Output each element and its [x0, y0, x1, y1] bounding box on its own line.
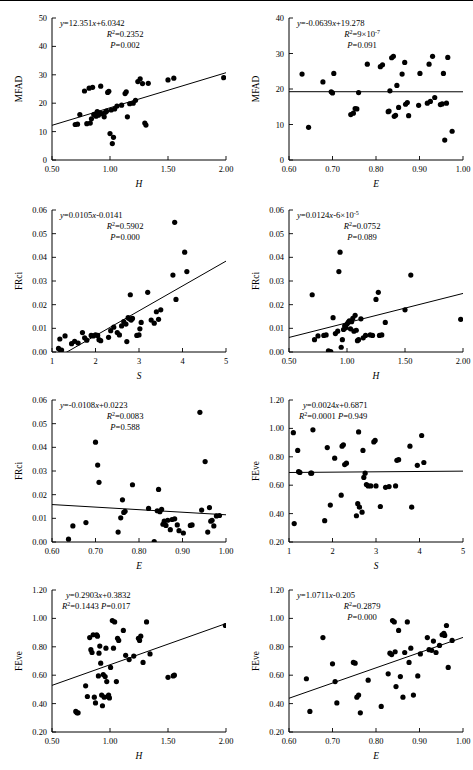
svg-text:y=1.0711x-0.205: y=1.0711x-0.205 [296, 590, 355, 600]
figure-top-rule [0, 0, 473, 1]
svg-text:y=0.0124x-6×10-5: y=0.0124x-6×10-5 [296, 210, 359, 220]
scatter-svg: 0.000.010.020.030.040.050.060.600.700.80… [0, 386, 236, 578]
x-axis-ticks: 0.501.001.502.00 [282, 348, 471, 366]
svg-text:20: 20 [276, 85, 284, 94]
svg-text:FRci: FRci [251, 271, 261, 290]
svg-text:0.05: 0.05 [32, 230, 47, 239]
svg-text:P=0.089: P=0.089 [346, 232, 376, 242]
svg-text:1.00: 1.00 [32, 614, 47, 623]
x-axis-ticks: 0.501.001.502.00 [45, 728, 234, 746]
svg-text:FEve: FEve [14, 651, 24, 671]
svg-text:5: 5 [461, 547, 465, 556]
stats-annotation: y=0.2903x+0.3832R2=0.1443 P=0.017 [61, 590, 131, 611]
svg-text:0.05: 0.05 [269, 230, 284, 239]
svg-text:0.60: 0.60 [32, 671, 47, 680]
x-axis-title: E [135, 561, 142, 571]
y-axis-title: MFAD [251, 76, 261, 103]
stats-annotation: y=-0.0108x+0.0223R2=0.0083P=0.588 [59, 400, 143, 432]
svg-text:y=0.2903x+0.3832: y=0.2903x+0.3832 [65, 590, 131, 600]
svg-text:R2=0.5902: R2=0.5902 [106, 221, 144, 231]
svg-text:0: 0 [43, 156, 47, 165]
svg-text:0.40: 0.40 [269, 700, 284, 709]
chart-panel-mfad-vs-h: 010203040500.501.001.502.00HMFADy=12.351… [0, 4, 236, 196]
chart-panel-mfad-vs-e: 0102030400.600.700.800.901.00EMFADy=-0.0… [237, 4, 473, 196]
svg-text:0.80: 0.80 [269, 643, 284, 652]
svg-text:0.06: 0.06 [269, 206, 284, 215]
svg-text:R2=0.2879: R2=0.2879 [343, 601, 381, 611]
svg-text:0.50: 0.50 [45, 737, 60, 746]
regression-line [52, 261, 226, 360]
chart-panel-frci-vs-h: 0.000.010.020.030.040.050.060.501.001.50… [237, 196, 473, 388]
svg-text:0.03: 0.03 [32, 277, 47, 286]
svg-text:0.04: 0.04 [32, 253, 47, 262]
svg-text:P=0.000: P=0.000 [346, 612, 376, 622]
svg-text:0.80: 0.80 [369, 165, 384, 174]
data-points [73, 618, 228, 716]
svg-text:3: 3 [137, 357, 141, 366]
data-points [73, 75, 227, 146]
y-axis-title: FEve [251, 651, 261, 671]
svg-text:40: 40 [39, 42, 47, 51]
svg-text:20: 20 [39, 99, 47, 108]
svg-text:0.06: 0.06 [32, 396, 47, 405]
svg-text:2.00: 2.00 [219, 737, 234, 746]
x-axis-ticks: 12345 [287, 538, 465, 556]
y-axis-title: FEve [251, 461, 261, 481]
chart-panel-frci-vs-e: 0.000.010.020.030.040.050.060.600.700.80… [0, 386, 236, 578]
svg-text:4: 4 [417, 547, 422, 556]
svg-text:1.20: 1.20 [32, 586, 47, 595]
data-points [299, 54, 454, 143]
svg-text:10: 10 [276, 121, 284, 130]
svg-text:1.00: 1.00 [103, 165, 118, 174]
svg-text:30: 30 [39, 71, 47, 80]
regression-line [289, 637, 463, 698]
svg-text:0.03: 0.03 [269, 277, 284, 286]
svg-text:1.00: 1.00 [269, 614, 284, 623]
svg-text:1.00: 1.00 [219, 547, 234, 556]
svg-text:1: 1 [50, 357, 54, 366]
svg-text:1.00: 1.00 [269, 424, 284, 433]
svg-text:0.90: 0.90 [412, 165, 427, 174]
y-axis-ticks: 010203040 [276, 14, 293, 165]
svg-text:FEve: FEve [251, 461, 261, 481]
svg-text:0.50: 0.50 [45, 165, 60, 174]
svg-text:40: 40 [276, 14, 284, 23]
svg-text:0.60: 0.60 [45, 547, 60, 556]
stats-annotation: y=0.0124x-6×10-5R2=0.0752P=0.089 [296, 210, 380, 242]
svg-text:y=-0.0108x+0.0223: y=-0.0108x+0.0223 [59, 400, 127, 410]
svg-text:2: 2 [93, 357, 97, 366]
svg-text:4: 4 [180, 357, 185, 366]
svg-text:0.06: 0.06 [32, 206, 47, 215]
svg-text:FRci: FRci [14, 271, 24, 290]
svg-text:2: 2 [330, 547, 334, 556]
scatter-svg: 0.000.010.020.030.040.050.0612345SFRciy=… [0, 196, 236, 388]
svg-text:R2=0.0083: R2=0.0083 [106, 411, 144, 421]
x-axis-ticks: 12345 [50, 348, 228, 366]
chart-panel-feve-vs-e: 0.200.400.600.801.001.200.600.700.800.90… [237, 576, 473, 768]
svg-text:0.50: 0.50 [282, 357, 297, 366]
svg-text:0.80: 0.80 [132, 547, 147, 556]
scatter-svg: 0.200.400.600.801.001.2012345SFEvey=0.00… [237, 386, 473, 578]
svg-text:P=0.091: P=0.091 [346, 40, 376, 50]
svg-text:0.90: 0.90 [175, 547, 190, 556]
x-axis-title: E [372, 751, 379, 761]
svg-text:1: 1 [287, 547, 291, 556]
scatter-svg: 0.200.400.600.801.001.200.600.700.800.90… [237, 576, 473, 768]
y-axis-title: FRci [14, 271, 24, 290]
svg-text:2.00: 2.00 [456, 357, 471, 366]
x-axis-title: H [135, 179, 144, 189]
svg-text:R2=0.2352: R2=0.2352 [106, 29, 144, 39]
svg-text:0.01: 0.01 [269, 324, 284, 333]
svg-text:0.80: 0.80 [369, 737, 384, 746]
stats-annotation: y=12.351x+6.0342R2=0.2352P=0.002 [59, 18, 143, 50]
svg-text:0.02: 0.02 [269, 301, 284, 310]
svg-text:0.01: 0.01 [32, 514, 47, 523]
svg-text:0.40: 0.40 [269, 510, 284, 519]
chart-panel-feve-vs-h: 0.200.400.600.801.001.200.501.001.502.00… [0, 576, 236, 768]
svg-text:P=0.002: P=0.002 [109, 40, 139, 50]
svg-text:0.80: 0.80 [32, 643, 47, 652]
svg-text:0: 0 [280, 156, 284, 165]
svg-text:0.70: 0.70 [325, 737, 340, 746]
chart-panel-frci-vs-s: 0.000.010.020.030.040.050.0612345SFRciy=… [0, 196, 236, 388]
svg-text:0.40: 0.40 [32, 700, 47, 709]
